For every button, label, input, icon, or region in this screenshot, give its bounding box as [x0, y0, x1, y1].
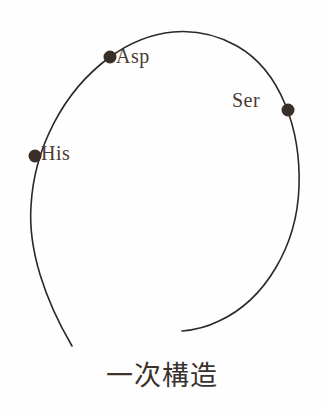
residue-marker-ser — [282, 104, 295, 117]
polypeptide-backbone-curve — [31, 32, 299, 346]
residue-label-his: His — [41, 143, 70, 163]
residue-marker-his — [29, 150, 42, 163]
residue-marker-asp — [104, 51, 117, 64]
residue-label-asp: Asp — [116, 46, 150, 66]
residue-label-ser: Ser — [232, 90, 260, 110]
primary-structure-diagram: Asp Ser His 一次構造 — [0, 0, 323, 411]
backbone-curve-svg — [0, 0, 323, 411]
figure-caption: 一次構造 — [0, 361, 323, 391]
